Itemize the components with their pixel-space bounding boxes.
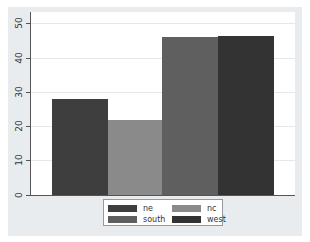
y-tick-label: 50 [12,16,26,30]
bar-nc [108,120,162,195]
legend-item-west: west [172,214,226,224]
x-axis [30,195,295,196]
legend-swatch [108,216,137,223]
legend-swatch [172,216,201,223]
y-tick-30 [26,92,30,93]
y-tick-label: 20 [12,119,26,133]
legend-label: west [207,215,226,224]
y-tick-20 [26,126,30,127]
legend-label: south [143,215,165,224]
gridline-50 [31,23,295,24]
bar-south [162,37,218,195]
legend-label: nc [207,204,216,213]
y-tick-50 [26,23,30,24]
y-tick-label: 0 [12,188,26,202]
y-tick-0 [26,195,30,196]
y-tick-label: 40 [12,51,26,65]
legend: ne nc south west [103,199,223,226]
bar-west [218,36,274,195]
legend-label: ne [143,204,153,213]
y-tick-10 [26,160,30,161]
y-tick-label: 30 [12,85,26,99]
bar-ne [52,99,108,195]
y-tick-40 [26,58,30,59]
legend-item-south: south [108,214,165,224]
legend-swatch [108,205,137,212]
legend-swatch [172,205,201,212]
legend-item-nc: nc [172,203,216,213]
legend-item-ne: ne [108,203,153,213]
y-tick-label: 10 [12,153,26,167]
y-axis [30,12,31,196]
